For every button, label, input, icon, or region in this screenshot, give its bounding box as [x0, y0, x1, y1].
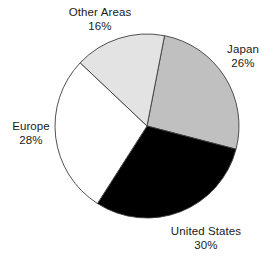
slice-label-united-states-name: United States	[156, 224, 256, 238]
slice-label-united-states-percent: 30%	[156, 238, 256, 252]
slice-label-japan: Japan 26%	[212, 42, 274, 70]
slice-label-europe-name: Europe	[0, 119, 62, 133]
pie-chart: Other Areas 16% Japan 26% Europe 28% Uni…	[0, 0, 275, 265]
slice-label-europe: Europe 28%	[0, 119, 62, 147]
slice-label-other-areas-name: Other Areas	[48, 5, 152, 19]
slice-label-other-areas-percent: 16%	[48, 19, 152, 33]
slice-label-japan-name: Japan	[212, 42, 274, 56]
slice-label-united-states: United States 30%	[156, 224, 256, 252]
slice-label-other-areas: Other Areas 16%	[48, 5, 152, 33]
slice-label-europe-percent: 28%	[0, 133, 62, 147]
slice-label-japan-percent: 26%	[212, 56, 274, 70]
